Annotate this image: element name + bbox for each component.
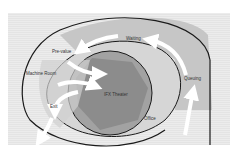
label-theater: IFX Theater: [104, 93, 128, 98]
label-queuing: Queuing: [184, 77, 201, 82]
label-waiting: Waiting: [126, 37, 141, 42]
label-machine-room: Machine Room: [26, 72, 56, 77]
label-pre-value: Pre-value: [52, 50, 71, 55]
label-office: Office: [144, 117, 156, 122]
label-exit: Exit: [50, 105, 58, 110]
theater-flow-diagram: [0, 0, 239, 159]
